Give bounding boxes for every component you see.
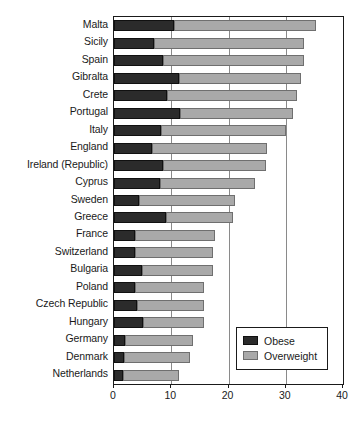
bar-segment-obese bbox=[114, 160, 163, 171]
bar-segment-obese bbox=[114, 55, 163, 66]
bar-segment-obese bbox=[114, 20, 174, 31]
y-axis-label-hungary: Hungary bbox=[0, 316, 108, 327]
bar-row bbox=[114, 73, 343, 84]
bar-row bbox=[114, 265, 343, 276]
y-axis-label-cyprus: Cyprus bbox=[0, 176, 108, 187]
bar-segment-overweight bbox=[143, 317, 205, 328]
bar-segment-obese bbox=[114, 247, 135, 258]
x-tick-label-10: 10 bbox=[164, 389, 176, 401]
stacked-bar-chart: MaltaSicilySpainGibraltaCretePortugalIta… bbox=[0, 0, 361, 421]
bar-segment-overweight bbox=[163, 160, 265, 171]
bar-segment-obese bbox=[114, 230, 135, 241]
y-axis-label-italy: Italy bbox=[0, 124, 108, 135]
x-tick-mark-40 bbox=[342, 384, 343, 388]
y-axis-label-poland: Poland bbox=[0, 281, 108, 292]
y-axis-label-switzerland: Switzerland bbox=[0, 246, 108, 257]
bar-segment-overweight bbox=[163, 55, 304, 66]
bar-segment-overweight bbox=[135, 230, 215, 241]
legend-label-obese: Obese bbox=[264, 335, 295, 347]
bar-segment-obese bbox=[114, 73, 179, 84]
bar-segment-overweight bbox=[125, 335, 193, 346]
y-axis-label-bulgaria: Bulgaria bbox=[0, 263, 108, 274]
bar-segment-obese bbox=[114, 38, 154, 49]
bar-row bbox=[114, 108, 343, 119]
y-axis-label-malta: Malta bbox=[0, 19, 108, 30]
bar-row bbox=[114, 247, 343, 258]
y-axis-label-sicily: Sicily bbox=[0, 36, 108, 47]
bar-segment-overweight bbox=[160, 178, 255, 189]
y-axis-label-crete: Crete bbox=[0, 89, 108, 100]
y-axis-label-denmark: Denmark bbox=[0, 351, 108, 362]
bar-row bbox=[114, 55, 343, 66]
bar-segment-obese bbox=[114, 212, 166, 223]
bar-segment-overweight bbox=[161, 125, 286, 136]
bar-row bbox=[114, 160, 343, 171]
bar-segment-overweight bbox=[179, 73, 301, 84]
bar-segment-obese bbox=[114, 335, 125, 346]
bar-row bbox=[114, 125, 343, 136]
bar-segment-overweight bbox=[124, 352, 190, 363]
bar-segment-obese bbox=[114, 90, 167, 101]
y-axis-label-spain: Spain bbox=[0, 54, 108, 65]
x-tick-label-40: 40 bbox=[336, 389, 348, 401]
y-axis-label-england: England bbox=[0, 141, 108, 152]
y-axis-label-netherlands: Netherlands bbox=[0, 368, 108, 379]
x-tick-mark-30 bbox=[285, 384, 286, 388]
y-axis-label-france: France bbox=[0, 228, 108, 239]
y-axis-label-czech-republic: Czech Republic bbox=[0, 298, 108, 309]
bar-segment-obese bbox=[114, 143, 152, 154]
bar-segment-obese bbox=[114, 352, 124, 363]
legend-item-overweight: Overweight bbox=[243, 348, 321, 363]
bar-segment-obese bbox=[114, 317, 143, 328]
bar-segment-overweight bbox=[142, 265, 213, 276]
bar-segment-overweight bbox=[154, 38, 304, 49]
bar-row bbox=[114, 300, 343, 311]
bar-segment-overweight bbox=[135, 282, 204, 293]
bar-row bbox=[114, 38, 343, 49]
legend-item-obese: Obese bbox=[243, 333, 321, 348]
bar-segment-overweight bbox=[152, 143, 268, 154]
bar-row bbox=[114, 143, 343, 154]
bar-segment-overweight bbox=[166, 212, 233, 223]
bar-segment-overweight bbox=[139, 195, 235, 206]
bar-segment-obese bbox=[114, 108, 180, 119]
bar-segment-obese bbox=[114, 125, 161, 136]
chart-legend: Obese Overweight bbox=[236, 327, 328, 370]
bar-row bbox=[114, 370, 343, 381]
bar-segment-obese bbox=[114, 265, 142, 276]
bar-row bbox=[114, 282, 343, 293]
bar-row bbox=[114, 212, 343, 223]
bar-segment-overweight bbox=[174, 20, 316, 31]
bar-segment-overweight bbox=[137, 300, 204, 311]
legend-label-overweight: Overweight bbox=[264, 350, 317, 362]
y-axis-label-greece: Greece bbox=[0, 211, 108, 222]
legend-swatch-overweight-icon bbox=[243, 351, 258, 360]
x-axis: 010203040 bbox=[113, 384, 343, 404]
bar-row bbox=[114, 230, 343, 241]
bar-segment-obese bbox=[114, 300, 137, 311]
y-axis-category-labels: MaltaSicilySpainGibraltaCretePortugalIta… bbox=[0, 16, 108, 383]
x-tick-mark-0 bbox=[113, 384, 114, 388]
x-tick-mark-10 bbox=[170, 384, 171, 388]
bar-row bbox=[114, 90, 343, 101]
x-tick-label-20: 20 bbox=[222, 389, 234, 401]
y-axis-label-portugal: Portugal bbox=[0, 106, 108, 117]
bar-segment-obese bbox=[114, 178, 160, 189]
bar-segment-overweight bbox=[135, 247, 213, 258]
y-axis-label-gibralta: Gibralta bbox=[0, 71, 108, 82]
bar-segment-overweight bbox=[180, 108, 293, 119]
x-tick-label-30: 30 bbox=[279, 389, 291, 401]
bar-segment-overweight bbox=[167, 90, 297, 101]
bar-row bbox=[114, 195, 343, 206]
bar-segment-overweight bbox=[123, 370, 180, 381]
x-tick-mark-20 bbox=[228, 384, 229, 388]
bar-segment-obese bbox=[114, 370, 123, 381]
legend-swatch-obese-icon bbox=[243, 336, 258, 345]
y-axis-label-sweden: Sweden bbox=[0, 194, 108, 205]
bar-row bbox=[114, 20, 343, 31]
x-tick-label-0: 0 bbox=[110, 389, 116, 401]
bar-segment-obese bbox=[114, 282, 135, 293]
y-axis-label-germany: Germany bbox=[0, 333, 108, 344]
bar-row bbox=[114, 178, 343, 189]
y-axis-label-ireland-republic: Ireland (Republic) bbox=[0, 159, 108, 170]
